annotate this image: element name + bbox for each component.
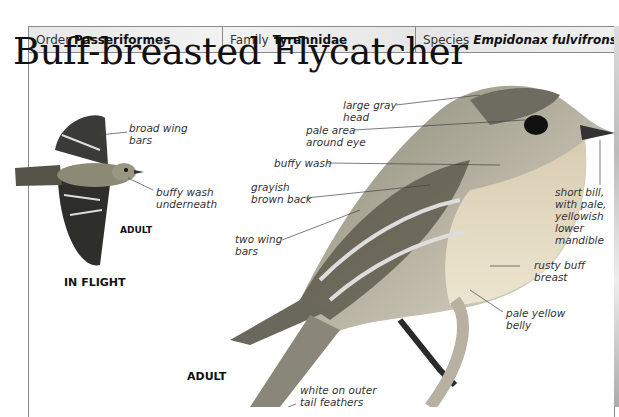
label-broad-wing-bars: broad wing bars	[129, 122, 188, 146]
flight-adult-caption: ADULT	[120, 225, 152, 235]
label-rusty-buff-breast: rusty buff breast	[534, 259, 585, 283]
in-flight-caption: IN FLIGHT	[64, 276, 125, 289]
label-buffy-wash-underneath: buffy wash underneath	[156, 186, 217, 210]
label-pale-area-around-eye: pale area around eye	[306, 124, 366, 148]
label-white-outer-tail: white on outer tail feathers	[300, 384, 376, 408]
label-two-wing-bars: two wing bars	[235, 233, 282, 257]
label-large-gray-head: large gray head	[343, 99, 397, 123]
label-pale-yellow-belly: pale yellow belly	[506, 307, 565, 331]
main-adult-caption: ADULT	[187, 370, 226, 383]
perched-bird-icon	[230, 86, 615, 407]
flying-bird-icon	[15, 115, 144, 265]
label-short-bill: short bill, with pale, yellowish lower m…	[555, 186, 606, 246]
label-buffy-wash: buffy wash	[274, 157, 332, 169]
label-grayish-brown-back: grayish brown back	[251, 181, 312, 205]
